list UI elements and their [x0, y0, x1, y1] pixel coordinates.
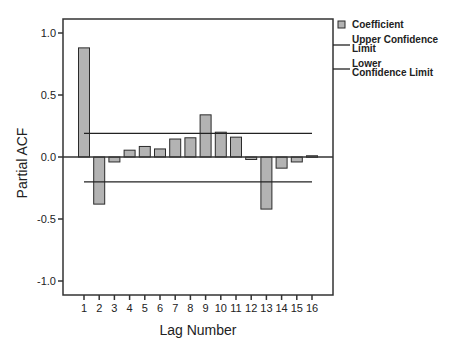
bar-lag-6 — [155, 149, 166, 157]
legend: CoefficientUpper ConfidenceLimitLowerCon… — [333, 19, 439, 78]
x-tick-label: 7 — [172, 302, 178, 314]
y-tick-label: 0.5 — [41, 89, 56, 101]
y-tick-label: 1.0 — [41, 27, 56, 39]
y-axis-title: Partial ACF — [14, 128, 30, 199]
x-tick-label: 16 — [306, 302, 318, 314]
y-tick-label: 0.0 — [41, 151, 56, 163]
bar-lag-10 — [215, 132, 226, 157]
bar-lag-2 — [94, 157, 105, 204]
bar-lag-7 — [170, 139, 181, 157]
x-tick-label: 9 — [203, 302, 209, 314]
legend-label-upper-2: Limit — [352, 43, 377, 54]
bar-lag-14 — [276, 157, 287, 168]
x-tick-label: 5 — [142, 302, 148, 314]
x-tick-label: 13 — [260, 302, 272, 314]
y-tick-label: -0.5 — [37, 213, 56, 225]
x-tick-label: 10 — [215, 302, 227, 314]
x-tick-label: 15 — [291, 302, 303, 314]
y-axis: 1.00.50.0-0.5-1.0 — [37, 27, 63, 287]
x-tick-label: 11 — [230, 302, 241, 314]
bar-lag-13 — [261, 157, 272, 209]
y-tick-label: -1.0 — [37, 275, 56, 287]
x-axis: 12345678910111213141516 — [81, 295, 318, 314]
bar-lag-8 — [185, 138, 196, 157]
x-tick-label: 2 — [96, 302, 102, 314]
bar-lag-5 — [139, 146, 150, 157]
x-tick-label: 1 — [81, 302, 87, 314]
x-tick-label: 12 — [245, 302, 257, 314]
bar-lag-1 — [79, 48, 90, 157]
legend-label-lower-2: Confidence Limit — [352, 67, 434, 78]
bar-lag-9 — [200, 115, 211, 157]
bar-lag-4 — [124, 150, 135, 157]
legend-swatch-coefficient — [338, 21, 345, 28]
x-tick-label: 8 — [187, 302, 193, 314]
x-tick-label: 4 — [127, 302, 133, 314]
legend-label-coefficient: Coefficient — [352, 19, 404, 30]
x-tick-label: 6 — [157, 302, 163, 314]
x-tick-label: 14 — [275, 302, 287, 314]
x-tick-label: 3 — [111, 302, 117, 314]
x-axis-title: Lag Number — [159, 322, 236, 338]
bar-lag-11 — [231, 137, 242, 157]
partial-acf-chart: 1.00.50.0-0.5-1.0 1234567891011121314151… — [0, 0, 452, 355]
